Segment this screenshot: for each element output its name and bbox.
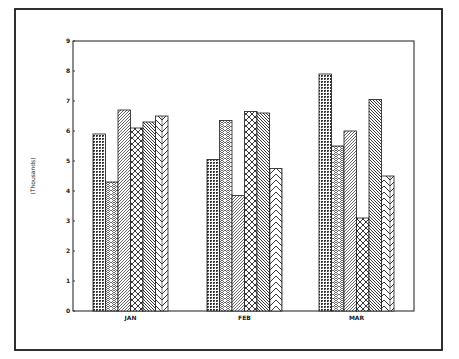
bar-feb-series-4: [245, 112, 258, 312]
y-tick-label: 4: [66, 187, 70, 194]
bar-jan-series-1: [93, 134, 106, 311]
bar-feb-series-3: [232, 196, 245, 312]
bar-mar-series-4: [357, 218, 370, 311]
y-tick-label: 5: [66, 157, 70, 164]
bar-mar-series-2: [332, 146, 345, 311]
bar-feb-series-5: [257, 113, 270, 311]
bar-mar-series-6: [382, 176, 395, 311]
y-tick-label: 0: [66, 307, 70, 314]
x-axis: JANFEBMAR: [124, 314, 365, 322]
y-tick-label: 9: [66, 37, 70, 44]
bar-jan-series-6: [156, 116, 169, 311]
bar-jan-series-5: [143, 122, 156, 311]
bar-mar-series-5: [369, 100, 382, 312]
bar-jan-series-4: [131, 128, 144, 311]
bar-feb-series-1: [207, 160, 220, 312]
y-tick-label: 2: [66, 247, 70, 254]
y-tick-label: 3: [66, 217, 70, 224]
x-category-label: MAR: [349, 314, 365, 321]
y-tick-label: 7: [66, 97, 70, 104]
x-category-label: FEB: [238, 314, 251, 321]
y-axis-title: (Thousands): [29, 157, 36, 194]
y-axis: 0123456789: [66, 37, 75, 314]
bar-mar-series-3: [344, 131, 357, 311]
bar-jan-series-2: [106, 182, 119, 311]
x-category-label: JAN: [124, 314, 137, 322]
bar-jan-series-3: [118, 110, 131, 311]
bar-feb-series-6: [270, 169, 283, 312]
bars: [93, 74, 394, 311]
bar-feb-series-2: [220, 121, 233, 312]
y-tick-label: 6: [66, 127, 70, 134]
bar-chart: 0123456789 JANFEBMAR (Thousands): [0, 0, 459, 359]
y-tick-label: 8: [66, 67, 70, 74]
y-tick-label: 1: [66, 277, 70, 284]
bar-mar-series-1: [319, 74, 332, 311]
